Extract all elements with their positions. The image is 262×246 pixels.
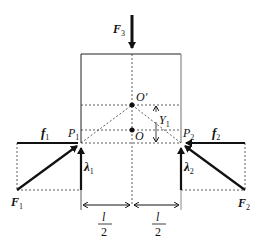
label-lambda1: λ1 xyxy=(83,159,94,176)
point-o-prime xyxy=(130,103,135,108)
label-F1: F1 xyxy=(10,195,23,211)
label-f3: F3 xyxy=(112,22,125,38)
f1-resultant-arrow xyxy=(17,146,77,190)
label-lambda2: λ2 xyxy=(183,159,194,176)
force-diagram: F3 O′ O Y1 P1 P2 f1 f2 λ1 λ2 F1 F2 l 2 l… xyxy=(0,0,262,246)
f2-resultant-arrow xyxy=(185,146,245,190)
label-l-right: l xyxy=(156,210,160,224)
label-f2: f2 xyxy=(212,125,220,142)
label-p2: P2 xyxy=(182,126,194,142)
label-p1: P1 xyxy=(67,126,79,142)
label-o: O xyxy=(135,129,144,143)
dashed-p1-to-o-prime xyxy=(81,105,132,143)
point-o xyxy=(130,128,135,133)
label-2-left: 2 xyxy=(101,225,107,239)
label-l-left: l xyxy=(102,210,106,224)
label-y1: Y1 xyxy=(159,113,170,129)
label-f1: f1 xyxy=(41,125,49,142)
label-2-right: 2 xyxy=(155,225,161,239)
label-F2: F2 xyxy=(237,196,250,212)
label-o-prime: O′ xyxy=(136,90,148,104)
